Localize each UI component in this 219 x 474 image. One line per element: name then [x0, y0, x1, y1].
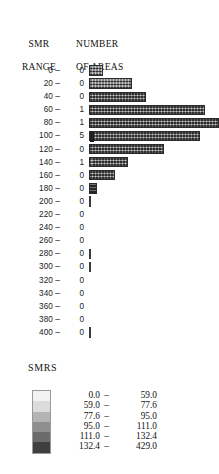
bar-track	[89, 314, 219, 324]
bar-track	[89, 65, 219, 75]
smr-range-tick-label: 20 –	[0, 77, 60, 90]
histogram-bar	[89, 78, 132, 88]
area-count-value: 0	[62, 234, 84, 247]
area-count-value: 0	[62, 90, 84, 103]
legend-range-dash: –	[100, 431, 113, 441]
smr-range-tick-label: 180 –	[0, 182, 60, 195]
legend-range-high: 95.0	[113, 411, 157, 421]
histogram-rows: 0 –020 –040 –060 –180 –1100 –5120 –0140 …	[0, 64, 219, 339]
legend-swatch	[33, 401, 50, 411]
area-count-value: 0	[62, 182, 84, 195]
histogram-row: 80 –1	[0, 116, 219, 129]
bar-track	[89, 92, 219, 102]
bar-track	[89, 118, 219, 128]
bar-track	[89, 105, 219, 115]
histogram-row: 280 –0	[0, 247, 219, 260]
bar-track	[89, 249, 219, 259]
smr-range-tick-label: 140 –	[0, 156, 60, 169]
legend-swatch	[33, 412, 50, 422]
histogram-row: 180 –0	[0, 182, 219, 195]
smr-range-tick-label: 120 –	[0, 143, 60, 156]
histogram-bar	[89, 327, 91, 337]
area-count-value: 0	[62, 300, 84, 313]
legend-range-low: 95.0	[56, 421, 100, 431]
bar-track	[89, 196, 219, 206]
histogram-row: 120 –0	[0, 143, 219, 156]
histogram-row: 200 –0	[0, 195, 219, 208]
histogram-bar	[89, 65, 103, 75]
area-count-value: 1	[62, 116, 84, 129]
legend-range-low: 0.0	[56, 390, 100, 400]
legend-row: 77.6–95.0	[56, 411, 206, 421]
legend-title: SMRS	[28, 362, 57, 373]
histogram-row: 400 –0	[0, 326, 219, 339]
area-count-value: 0	[62, 64, 84, 77]
bar-track	[89, 183, 219, 193]
legend-range-dash: –	[100, 390, 113, 400]
legend-row: 111.0–132.4	[56, 431, 206, 441]
area-count-value: 0	[62, 260, 84, 273]
area-count-value: 0	[62, 77, 84, 90]
legend-row: 59.0–77.6	[56, 400, 206, 410]
histogram-bar	[89, 157, 128, 167]
legend-range-high: 132.4	[113, 431, 157, 441]
legend-swatch	[33, 432, 50, 442]
legend-swatch-column	[32, 390, 51, 454]
smr-range-tick-label: 60 –	[0, 103, 60, 116]
histogram-row: 160 –0	[0, 169, 219, 182]
smr-range-tick-label: 240 –	[0, 221, 60, 234]
legend-range-dash: –	[100, 421, 113, 431]
histogram-row: 140 –1	[0, 156, 219, 169]
smr-range-tick-label: 200 –	[0, 195, 60, 208]
histogram-bar	[89, 183, 97, 193]
histogram-bar-cap	[90, 132, 94, 142]
smr-range-tick-label: 320 –	[0, 274, 60, 287]
legend-range-dash: –	[100, 400, 113, 410]
histogram-bar	[89, 131, 200, 141]
bar-track	[89, 275, 219, 285]
column-headers: SMR RANGE NUMBER OF AREAS	[0, 27, 219, 61]
legend-range-low: 132.4	[56, 441, 100, 451]
area-count-value: 5	[62, 129, 84, 142]
legend-row: 95.0–111.0	[56, 421, 206, 431]
histogram-row: 60 –1	[0, 103, 219, 116]
smr-range-tick-label: 220 –	[0, 208, 60, 221]
smr-range-tick-label: 340 –	[0, 287, 60, 300]
bar-track	[89, 157, 219, 167]
legend-swatch	[33, 442, 50, 452]
histogram-row: 380 –0	[0, 313, 219, 326]
histogram-bar	[89, 262, 91, 272]
number-of-areas-header-line1: NUMBER	[76, 39, 162, 51]
bar-track	[89, 170, 219, 180]
bar-track	[89, 262, 219, 272]
area-count-value: 0	[62, 326, 84, 339]
histogram-row: 0 –0	[0, 64, 219, 77]
histogram-row: 40 –0	[0, 90, 219, 103]
smr-range-header-line1: SMR	[8, 39, 70, 51]
smr-range-tick-label: 160 –	[0, 169, 60, 182]
area-count-value: 0	[62, 221, 84, 234]
bar-track	[89, 236, 219, 246]
histogram-bar	[89, 249, 91, 259]
bar-track	[89, 288, 219, 298]
legend-range-low: 59.0	[56, 400, 100, 410]
area-count-value: 0	[62, 195, 84, 208]
smr-range-tick-label: 40 –	[0, 90, 60, 103]
bar-track	[89, 78, 219, 88]
legend-range-high: 429.0	[113, 441, 157, 451]
histogram-bar	[89, 170, 115, 180]
legend-row: 132.4–429.0	[56, 441, 206, 451]
legend-range-high: 59.0	[113, 390, 157, 400]
bar-track	[89, 327, 219, 337]
legend-label-column: 0.0–59.059.0–77.677.6–95.095.0–111.0111.…	[56, 390, 206, 452]
histogram-bar	[89, 92, 146, 102]
histogram-row: 340 –0	[0, 287, 219, 300]
area-count-value: 0	[62, 208, 84, 221]
legend-range-dash: –	[100, 411, 113, 421]
bar-track	[89, 131, 219, 141]
bar-track	[89, 209, 219, 219]
histogram-row: 300 –0	[0, 260, 219, 273]
histogram-row: 20 –0	[0, 77, 219, 90]
histogram-bar	[89, 196, 91, 206]
smr-range-tick-label: 260 –	[0, 234, 60, 247]
